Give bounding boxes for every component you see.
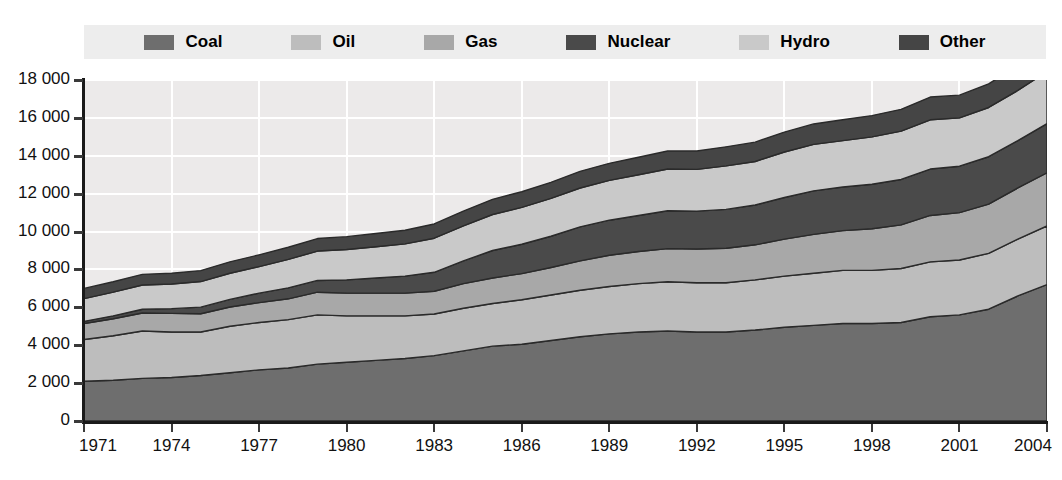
x-tick-label-2004: 2004 <box>1014 436 1052 456</box>
y-tick-mark-16000 <box>74 117 83 120</box>
y-tick-label-10000: 10 000 <box>2 221 70 241</box>
legend-item-other[interactable]: Other <box>899 32 986 52</box>
y-tick-label-12000: 12 000 <box>2 183 70 203</box>
stacked-area-chart: CoalOilGasNuclearHydroOther 18 00016 000… <box>0 0 1062 480</box>
x-axis-line <box>82 421 1048 424</box>
chart-legend: CoalOilGasNuclearHydroOther <box>84 25 1046 59</box>
legend-item-coal[interactable]: Coal <box>144 32 222 52</box>
legend-swatch-other-icon <box>899 35 929 50</box>
x-tick-label-1986: 1986 <box>503 436 541 456</box>
x-tick-label-1971: 1971 <box>79 436 117 456</box>
y-tick-mark-14000 <box>74 155 83 158</box>
legend-item-gas[interactable]: Gas <box>424 32 497 52</box>
y-tick-label-6000: 6 000 <box>2 296 70 316</box>
plot-area <box>84 80 1047 421</box>
x-tick-label-1992: 1992 <box>678 436 716 456</box>
x-tick-label-1998: 1998 <box>853 436 891 456</box>
x-tick-label-2001: 2001 <box>941 436 979 456</box>
legend-label-hydro: Hydro <box>780 32 830 52</box>
x-tick-mark-1974 <box>171 424 173 432</box>
x-tick-mark-1986 <box>521 424 523 432</box>
y-tick-mark-12000 <box>74 193 83 196</box>
x-tick-label-1974: 1974 <box>153 436 191 456</box>
legend-label-nuclear: Nuclear <box>607 32 670 52</box>
y-tick-mark-8000 <box>74 268 83 271</box>
legend-item-nuclear[interactable]: Nuclear <box>566 32 670 52</box>
legend-label-coal: Coal <box>185 32 222 52</box>
x-tick-mark-1998 <box>871 424 873 432</box>
y-tick-label-8000: 8 000 <box>2 258 70 278</box>
x-tick-mark-1971 <box>83 424 85 432</box>
x-tick-label-1977: 1977 <box>240 436 278 456</box>
x-tick-mark-1989 <box>608 424 610 432</box>
y-tick-label-4000: 4 000 <box>2 334 70 354</box>
x-tick-label-1983: 1983 <box>415 436 453 456</box>
y-tick-label-16000: 16 000 <box>2 107 70 127</box>
y-tick-mark-4000 <box>74 344 83 347</box>
x-tick-mark-1983 <box>433 424 435 432</box>
x-tick-mark-1977 <box>258 424 260 432</box>
y-axis-line <box>82 78 85 423</box>
y-tick-mark-0 <box>74 420 83 423</box>
legend-swatch-oil-icon <box>291 35 321 50</box>
y-tick-mark-10000 <box>74 231 83 234</box>
y-tick-mark-18000 <box>74 79 83 82</box>
x-tick-mark-2001 <box>958 424 960 432</box>
x-tick-mark-1992 <box>696 424 698 432</box>
legend-swatch-nuclear-icon <box>566 35 596 50</box>
legend-label-gas: Gas <box>465 32 497 52</box>
y-tick-label-18000: 18 000 <box>2 69 70 89</box>
y-tick-mark-6000 <box>74 306 83 309</box>
y-tick-label-0: 0 <box>2 410 70 430</box>
legend-item-hydro[interactable]: Hydro <box>739 32 830 52</box>
y-tick-label-14000: 14 000 <box>2 145 70 165</box>
legend-label-other: Other <box>940 32 986 52</box>
x-tick-mark-1980 <box>346 424 348 432</box>
area-series-layer <box>84 80 1047 421</box>
x-tick-mark-1995 <box>783 424 785 432</box>
x-tick-label-1980: 1980 <box>328 436 366 456</box>
y-tick-label-2000: 2 000 <box>2 372 70 392</box>
legend-item-oil[interactable]: Oil <box>291 32 355 52</box>
legend-swatch-gas-icon <box>424 35 454 50</box>
y-tick-mark-2000 <box>74 382 83 385</box>
legend-swatch-coal-icon <box>144 35 174 50</box>
legend-swatch-hydro-icon <box>739 35 769 50</box>
legend-label-oil: Oil <box>332 32 355 52</box>
x-tick-label-1995: 1995 <box>765 436 803 456</box>
x-tick-label-1989: 1989 <box>590 436 628 456</box>
x-tick-mark-2004 <box>1046 424 1048 432</box>
